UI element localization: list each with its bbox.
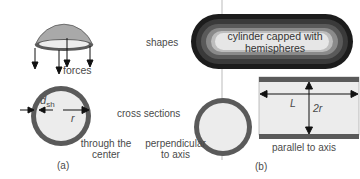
perpendicular-line1: perpendicular bbox=[143, 138, 208, 149]
length-label: L bbox=[290, 98, 296, 109]
diameter-label: 2r bbox=[313, 103, 322, 114]
thickness-subscript: sh bbox=[46, 100, 54, 109]
thickness-label: dsh bbox=[40, 95, 55, 110]
through-center-label: through the center bbox=[76, 138, 136, 160]
perpendicular-label: perpendicular to axis bbox=[143, 138, 208, 160]
hemisphere-shell bbox=[35, 24, 93, 51]
radius-label: r bbox=[71, 113, 75, 124]
through-center-line2: center bbox=[76, 149, 136, 160]
panel-label-a: (a) bbox=[57, 160, 69, 171]
capsule-line1: cylinder capped with bbox=[225, 30, 325, 42]
forces-label: forces bbox=[63, 65, 92, 76]
capsule-label: cylinder capped with hemispheres bbox=[225, 30, 325, 54]
panel-label-b: (b) bbox=[255, 161, 267, 172]
capsule-line2: hemispheres bbox=[225, 42, 325, 54]
through-center-line1: through the bbox=[76, 138, 136, 149]
row-label-cross-sections: cross sections bbox=[117, 108, 180, 119]
parallel-label: parallel to axis bbox=[272, 142, 336, 153]
diameter-symbol: 2r bbox=[313, 102, 322, 114]
perpendicular-line2: to axis bbox=[143, 149, 208, 160]
row-label-shapes: shapes bbox=[146, 37, 178, 48]
